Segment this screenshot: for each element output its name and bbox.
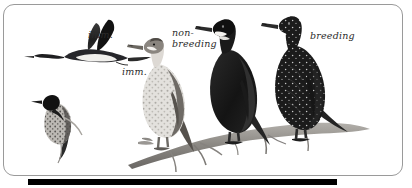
label-imm-flight: imm. [88,30,113,41]
label-imm-perched: imm. [122,67,147,78]
figure-branch-immature [127,38,194,152]
figure-perched-immature [31,95,82,163]
figure-flying-immature [24,20,151,65]
label-non-breeding: non- breeding [172,28,217,49]
label-breeding: breeding [310,31,355,42]
bottom-rule-bar [28,179,337,185]
illustration-plate: imm. imm. non- breeding breeding [0,0,412,188]
plate-card: imm. imm. non- breeding breeding [3,4,403,176]
